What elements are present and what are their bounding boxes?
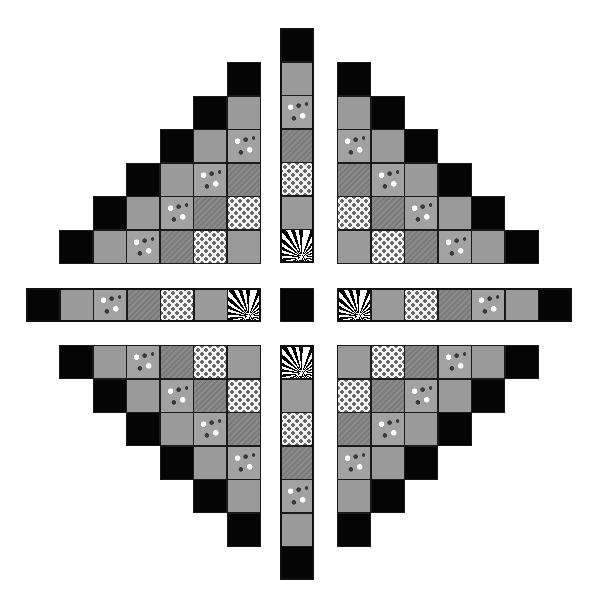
- bottom-right-triangle-patch-black: [371, 479, 405, 513]
- right-strip-patch-floral: [471, 288, 505, 322]
- bottom-right-triangle-patch-stripe: [337, 412, 371, 446]
- top-right-triangle-patch-gray: [471, 230, 505, 264]
- bottom-strip-patch-black: [280, 546, 314, 580]
- bottom-left-triangle-patch-stripe: [227, 412, 261, 446]
- top-right-triangle-patch-gray: [438, 196, 472, 230]
- bottom-right-triangle-patch-white-floral: [337, 379, 371, 413]
- bottom-right-triangle-patch-floral: [438, 345, 472, 379]
- top-right-triangle-patch-black: [438, 163, 472, 197]
- bottom-right-triangle-patch-gray: [404, 412, 438, 446]
- top-right-triangle-patch-white-floral: [371, 230, 405, 264]
- top-strip-patch-gray: [280, 62, 314, 96]
- top-right-triangle-patch-gray: [371, 129, 405, 163]
- bottom-right-triangle-patch-gray: [371, 446, 405, 480]
- top-right-triangle-patch-gray: [337, 230, 371, 264]
- bottom-right-triangle-patch-stripe: [371, 379, 405, 413]
- bottom-left-triangle-patch-floral: [193, 412, 227, 446]
- top-left-triangle-patch-gray: [93, 230, 127, 264]
- bottom-left-triangle-patch-gray: [93, 345, 127, 379]
- top-strip-patch-floral: [280, 95, 314, 129]
- bottom-left-triangle-patch-gray: [227, 479, 261, 513]
- top-left-triangle-patch-stripe: [227, 163, 261, 197]
- left-strip-patch-floral: [93, 288, 127, 322]
- center-square-patch-black: [280, 288, 314, 322]
- top-left-triangle-patch-black: [160, 129, 194, 163]
- bottom-left-triangle-patch-floral: [160, 379, 194, 413]
- bottom-right-triangle-patch-black: [404, 446, 438, 480]
- top-strip-patch-gray: [280, 196, 314, 230]
- bottom-right-triangle-patch-black: [505, 345, 539, 379]
- bottom-right-triangle-patch-gray: [337, 479, 371, 513]
- bottom-left-triangle-patch-black: [160, 446, 194, 480]
- bottom-strip-patch-stripe: [280, 446, 314, 480]
- bottom-strip-patch-gray: [280, 379, 314, 413]
- right-strip-patch-gray: [371, 288, 405, 322]
- left-strip-patch-black: [26, 288, 60, 322]
- top-left-triangle-patch-white-floral: [227, 196, 261, 230]
- bottom-left-triangle-patch-black: [227, 513, 261, 547]
- top-left-triangle-patch-black: [59, 230, 93, 264]
- top-right-triangle-patch-floral: [404, 196, 438, 230]
- bottom-left-triangle-patch-gray: [227, 345, 261, 379]
- bottom-right-triangle-patch-floral: [404, 379, 438, 413]
- top-left-triangle-patch-gray: [193, 129, 227, 163]
- bottom-right-triangle-patch-white-floral: [371, 345, 405, 379]
- top-right-triangle-patch-gray: [337, 96, 371, 130]
- right-strip-patch-large-flower: [337, 288, 371, 322]
- top-left-triangle-patch-gray: [160, 163, 194, 197]
- left-strip-patch-stripe: [127, 288, 161, 322]
- bottom-right-triangle-patch-floral: [371, 412, 405, 446]
- top-right-triangle-patch-black: [505, 230, 539, 264]
- bottom-left-triangle-patch-gray: [126, 379, 160, 413]
- bottom-strip-patch-large-flower: [280, 345, 314, 379]
- bottom-left-triangle-patch-black: [193, 479, 227, 513]
- bottom-left-triangle-patch-floral: [126, 345, 160, 379]
- top-left-triangle-patch-floral: [160, 196, 194, 230]
- bottom-strip-patch-white-floral: [280, 412, 314, 446]
- top-right-triangle-patch-black: [371, 96, 405, 130]
- top-right-triangle-patch-floral: [438, 230, 472, 264]
- top-left-triangle-patch-floral: [193, 163, 227, 197]
- top-right-triangle-patch-black: [471, 196, 505, 230]
- left-strip-patch-gray: [194, 288, 228, 322]
- top-right-triangle-patch-black: [337, 62, 371, 96]
- bottom-left-triangle-patch-black: [126, 412, 160, 446]
- bottom-right-triangle-patch-black: [438, 412, 472, 446]
- top-right-triangle-patch-gray: [404, 163, 438, 197]
- left-strip-patch-large-flower: [227, 288, 261, 322]
- bottom-left-triangle-patch-white-floral: [227, 379, 261, 413]
- top-left-triangle-patch-gray: [126, 196, 160, 230]
- left-strip-patch-gray: [60, 288, 94, 322]
- top-left-triangle-patch-gray: [227, 96, 261, 130]
- top-right-triangle-patch-black: [404, 129, 438, 163]
- right-strip-patch-stripe: [438, 288, 472, 322]
- bottom-right-triangle-patch-stripe: [404, 345, 438, 379]
- bottom-left-triangle-patch-white-floral: [193, 345, 227, 379]
- bottom-right-triangle-patch-black: [471, 379, 505, 413]
- bottom-right-triangle-patch-floral: [337, 446, 371, 480]
- bottom-left-triangle-patch-black: [93, 379, 127, 413]
- bottom-right-triangle-patch-gray: [337, 345, 371, 379]
- right-strip-patch-black: [538, 288, 572, 322]
- bottom-left-triangle-patch-stripe: [160, 345, 194, 379]
- bottom-left-triangle-patch-gray: [193, 446, 227, 480]
- top-left-triangle-patch-floral: [227, 129, 261, 163]
- top-right-triangle-patch-floral: [337, 129, 371, 163]
- top-right-triangle-patch-stripe: [404, 230, 438, 264]
- top-left-triangle-patch-black: [193, 96, 227, 130]
- top-right-triangle-patch-stripe: [371, 196, 405, 230]
- bottom-left-triangle-patch-black: [59, 345, 93, 379]
- bottom-right-triangle-patch-black: [337, 513, 371, 547]
- bottom-right-triangle-patch-gray: [471, 345, 505, 379]
- right-strip-patch-white-floral: [404, 288, 438, 322]
- bottom-left-triangle-patch-gray: [160, 412, 194, 446]
- top-left-triangle-patch-black: [126, 163, 160, 197]
- top-strip-patch-black: [280, 28, 314, 62]
- bottom-left-triangle-patch-floral: [227, 446, 261, 480]
- top-strip-patch-large-flower: [280, 229, 314, 263]
- bottom-strip-patch-floral: [280, 479, 314, 513]
- top-left-triangle-patch-stripe: [160, 230, 194, 264]
- top-left-triangle-patch-floral: [126, 230, 160, 264]
- left-strip-patch-white-floral: [160, 288, 194, 322]
- top-right-triangle-patch-floral: [371, 163, 405, 197]
